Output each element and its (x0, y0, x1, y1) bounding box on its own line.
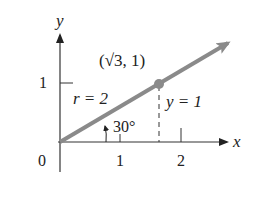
point-label: (√3, 1) (99, 51, 145, 70)
height-label: y = 1 (164, 92, 202, 111)
origin-label: 0 (38, 152, 46, 169)
radius-label: r = 2 (73, 89, 109, 108)
angle-arc-icon (105, 126, 106, 142)
point-marker (154, 79, 164, 89)
angle-label: 30° (113, 118, 135, 135)
x-tick-label-1: 1 (116, 152, 124, 169)
y-axis-label: y (54, 11, 64, 30)
polar-coordinates-diagram: y x 0 1 2 1 (√3, 1) r = 2 y = 1 30° (0, 0, 260, 199)
x-axis-label: x (232, 132, 241, 151)
x-tick-label-2: 2 (177, 152, 185, 169)
diagram-svg: y x 0 1 2 1 (√3, 1) r = 2 y = 1 30° (0, 0, 260, 199)
y-tick-label-1: 1 (39, 74, 47, 91)
